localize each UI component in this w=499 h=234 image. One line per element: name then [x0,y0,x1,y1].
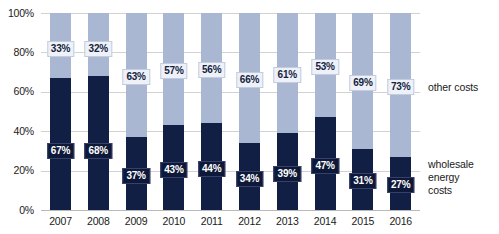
x-tick-label-2012: 2012 [230,215,270,227]
data-label-other-2007: 33% [47,41,74,57]
data-label-wholesale-2009: 37% [122,168,149,184]
x-tick-label-2007: 2007 [41,215,81,227]
plot-area: 33%67%32%68%63%37%57%43%56%44%66%34%61%3… [41,13,420,210]
data-label-other-2008: 32% [85,41,112,57]
x-tick-label-2016: 2016 [381,215,421,227]
data-label-other-2014: 53% [311,59,338,75]
bar-column-2010 [163,13,184,210]
data-label-wholesale-2008: 68% [85,143,112,159]
data-label-wholesale-2015: 31% [349,173,376,189]
data-label-wholesale-2011: 44% [198,161,225,177]
y-tick-label-20: 20% [0,165,34,176]
y-tick-label-60: 60% [0,86,34,97]
data-label-wholesale-2010: 43% [160,162,187,178]
x-tick-label-2015: 2015 [343,215,383,227]
stacked-bar-chart: 100% 80% 60% 40% 20% 0% 33%67%32%68%63%3… [0,0,499,234]
x-tick-label-2014: 2014 [305,215,345,227]
x-tick-label-2011: 2011 [192,215,232,227]
legend-label-wholesale-energy-costs: wholesale energy costs [428,158,496,197]
x-tick-label-2008: 2008 [78,215,118,227]
data-label-other-2011: 56% [198,62,225,78]
data-label-other-2016: 73% [387,79,414,95]
legend-wholesale-line3: costs [428,184,496,197]
y-tick-label-40: 40% [0,126,34,137]
legend-wholesale-line1: wholesale [428,158,496,171]
data-label-other-2012: 66% [236,72,263,88]
data-label-wholesale-2014: 47% [311,158,338,174]
x-tick-label-2009: 2009 [116,215,156,227]
legend-label-other-costs: other costs [428,81,478,94]
data-label-wholesale-2012: 34% [236,171,263,187]
legend-wholesale-line2: energy [428,171,496,184]
gridline-0 [41,210,420,211]
y-axis: 100% 80% 60% 40% 20% 0% [0,0,41,234]
data-label-other-2013: 61% [274,67,301,83]
y-tick-label-80: 80% [0,47,34,58]
data-label-wholesale-2016: 27% [387,177,414,193]
bar-column-2014 [315,13,336,210]
x-tick-label-2010: 2010 [154,215,194,227]
x-tick-label-2013: 2013 [267,215,307,227]
y-tick-label-0: 0% [0,205,34,216]
data-label-wholesale-2007: 67% [47,143,74,159]
data-label-other-2015: 69% [349,75,376,91]
bar-column-2011 [201,13,222,210]
data-label-other-2010: 57% [160,63,187,79]
y-tick-label-100: 100% [0,8,34,19]
data-label-other-2009: 63% [122,69,149,85]
data-label-wholesale-2013: 39% [274,166,301,182]
